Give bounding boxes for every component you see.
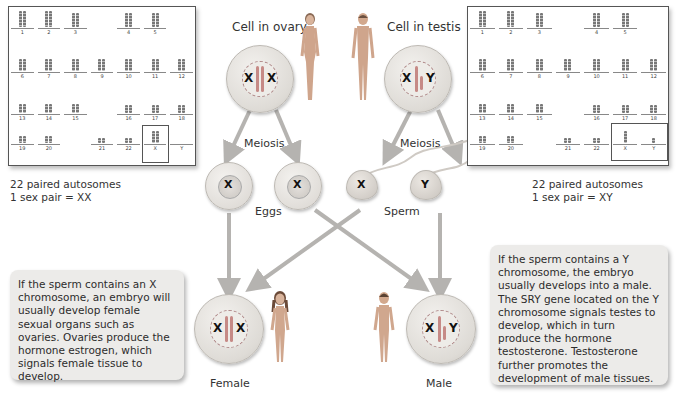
autosome-pair: 12 — [170, 57, 193, 79]
male-zygote-cell: X Y — [406, 294, 476, 364]
autosome-pair: 3 — [64, 13, 87, 35]
chromosome-number: 3 — [527, 29, 552, 35]
chromosome-number: 4 — [117, 29, 140, 35]
chromosome-number: 11 — [613, 73, 638, 79]
chromosome-label: X — [267, 71, 276, 85]
chromosome-number: 21 — [91, 145, 114, 151]
chromosome-number: 20 — [499, 145, 524, 151]
chromosome-number: 11 — [144, 73, 167, 79]
autosome-pair: 18 — [641, 99, 666, 121]
chromosome-number: 19 — [470, 145, 495, 151]
chromosome-label: X — [425, 321, 434, 335]
x-chromosome-bar — [230, 316, 233, 342]
chromosome-label: X — [402, 71, 411, 85]
autosome-pair: 8 — [64, 57, 87, 79]
chromosome-number: 8 — [64, 73, 87, 79]
chromosome-label: Y — [426, 71, 435, 85]
caption-line: 1 sex pair = XY — [532, 191, 643, 204]
x-chromosome-bar — [261, 66, 264, 92]
chromosome-number: 20 — [38, 145, 61, 151]
egg-cell: X — [274, 162, 322, 210]
chromosome-number: 17 — [613, 115, 638, 121]
male-karyotype-panel: 12345678910111213141516171819202122XY — [467, 6, 669, 166]
chromosome-label: X — [213, 321, 222, 335]
autosome-pair: 5 — [144, 13, 167, 35]
autosome-pair: 20 — [499, 129, 524, 151]
cell-in-ovary-label: Cell in ovary — [232, 20, 307, 34]
autosome-pair: 11 — [144, 57, 167, 79]
chromosome-label: Y — [449, 321, 458, 335]
adult-female-figure — [298, 12, 322, 104]
female-explanation-box: If the sperm contains an X chromosome, a… — [10, 270, 184, 380]
chromosome-number: 16 — [584, 115, 609, 121]
chromosome-label: X — [224, 178, 232, 191]
x-chromosome-bar — [415, 66, 418, 92]
chromosome-number: 1 — [11, 29, 34, 35]
autosome-pair: 14 — [38, 99, 61, 121]
autosome-pair: 6 — [11, 57, 34, 79]
chromosome-number: 7 — [38, 73, 61, 79]
autosome-pair: 21 — [91, 129, 114, 151]
female-zygote-cell: X X — [194, 294, 264, 364]
autosome-pair: 20 — [38, 129, 61, 151]
chromosome-number: 9 — [91, 73, 114, 79]
chromosome-number: 13 — [470, 115, 495, 121]
autosome-pair: 19 — [11, 129, 34, 151]
girl-figure — [268, 290, 292, 366]
chromosome-label: X — [293, 178, 301, 191]
autosome-pair: 1 — [11, 13, 34, 35]
chromosome-number: 5 — [613, 29, 638, 35]
autosome-pair: 12 — [641, 57, 666, 79]
chromosome-label: X — [244, 71, 253, 85]
chromosome-number: 3 — [64, 29, 87, 35]
autosome-pair: 10 — [117, 57, 140, 79]
egg-cell: X — [205, 162, 253, 210]
autosome-pair: 22 — [584, 129, 609, 151]
ovary-cell: X X — [226, 45, 294, 113]
autosome-pair: 19 — [470, 129, 495, 151]
chromosome-number: 6 — [470, 73, 495, 79]
chromosome-number: 14 — [38, 115, 61, 121]
x-chromosome-bar — [438, 316, 441, 342]
eggs-label: Eggs — [255, 205, 282, 218]
male-label: Male — [426, 377, 452, 390]
chromosome-number: 14 — [499, 115, 524, 121]
autosome-pair: 16 — [584, 99, 609, 121]
chromosome-number: 9 — [556, 73, 581, 79]
chromosome-number: 6 — [11, 73, 34, 79]
autosome-pair: 4 — [117, 13, 140, 35]
y-chromosome-bar — [443, 326, 446, 340]
chromosome-label: X — [357, 178, 365, 191]
autosome-pair: 17 — [613, 99, 638, 121]
autosome-pair: 2 — [499, 13, 524, 35]
chromosome-number: 12 — [641, 73, 666, 79]
chromosome-number: 21 — [556, 145, 581, 151]
autosome-pair: 15 — [64, 99, 87, 121]
female-karyotype-panel: 12345678910111213141516171819202122XY — [8, 6, 196, 166]
autosome-pair: 10 — [584, 57, 609, 79]
autosome-pair: 8 — [527, 57, 552, 79]
autosome-pair: 22 — [117, 129, 140, 151]
chromosome-number: 10 — [117, 73, 140, 79]
chromosome-number: 19 — [11, 145, 34, 151]
meiosis-label-right: Meiosis — [400, 137, 441, 150]
testis-cell: X Y — [384, 45, 452, 113]
autosome-pair: 15 — [527, 99, 552, 121]
caption-line: 22 paired autosomes — [10, 178, 121, 191]
x-chromosome-bar — [256, 66, 259, 92]
chromosome-number: 2 — [499, 29, 524, 35]
y-chromosome-bar — [420, 76, 423, 90]
chromosome-number: 16 — [117, 115, 140, 121]
autosome-pair: 2 — [38, 13, 61, 35]
chromosome-number: 17 — [144, 115, 167, 121]
cell-in-testis-label: Cell in testis — [387, 20, 461, 34]
chromosome-number: 22 — [117, 145, 140, 151]
male-karyotype-caption: 22 paired autosomes 1 sex pair = XY — [532, 178, 643, 203]
chromosome-number: 2 — [38, 29, 61, 35]
caption-line: 22 paired autosomes — [532, 178, 643, 191]
chromosome-number: 1 — [470, 29, 495, 35]
sperm-cell: Y — [410, 170, 442, 200]
chromosome-number: 18 — [641, 115, 666, 121]
autosome-pair: 11 — [613, 57, 638, 79]
autosome-pair: 3 — [527, 13, 552, 35]
